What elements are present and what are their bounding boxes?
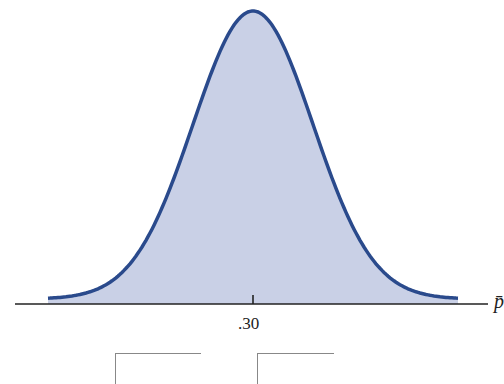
mean-tick-label: .30 bbox=[238, 314, 259, 334]
distribution-fill-area bbox=[48, 11, 458, 304]
x-axis-label: p̄ bbox=[494, 290, 504, 313]
formula-box-left bbox=[115, 353, 201, 384]
formula-box-right bbox=[257, 353, 334, 384]
